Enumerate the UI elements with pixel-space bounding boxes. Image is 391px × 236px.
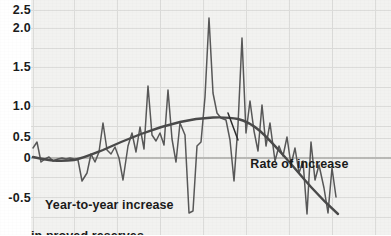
annotation-rate-of-increase: Rate of increase [236, 142, 348, 187]
annotation-reserves-line1: Year-to-year increase [45, 198, 174, 212]
annotation-year-to-year-increase: Year-to-year increase in proved reserves… [31, 182, 174, 235]
chart-container: 2.5 2.0 1.5 1.0 0.5 0 -0.5 [0, 0, 391, 235]
annotation-rate-line1: Rate of increase [250, 157, 348, 171]
annotation-reserves-line2: in proved reserves — [31, 229, 174, 236]
